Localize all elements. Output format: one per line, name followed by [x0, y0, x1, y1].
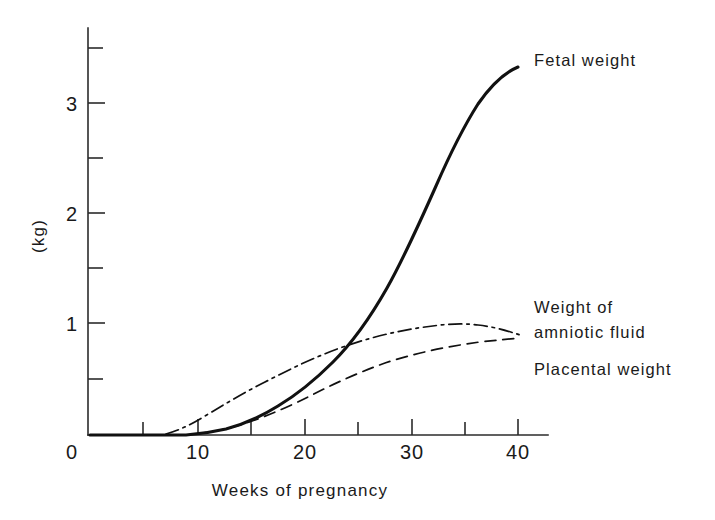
series-label-placental-weight: Placental weight: [534, 360, 672, 378]
y-tick-label-1: 1: [66, 313, 78, 335]
curve-amniotic-fluid: [166, 324, 520, 434]
curves-group: [90, 67, 520, 435]
axes-group: [88, 28, 548, 435]
x-tick-labels: 10 20 30 40: [186, 441, 530, 463]
y-tick-marks: [88, 48, 105, 379]
y-axis-title: (kg): [29, 219, 48, 253]
series-label-fetal-weight: Fetal weight: [534, 51, 636, 69]
curve-fetal-weight: [90, 67, 518, 435]
series-labels-group: Fetal weight Weight of amniotic fluid Pl…: [534, 51, 672, 378]
x-tick-label-10: 10: [186, 441, 210, 463]
y-tick-labels: 3 2 1 0: [66, 93, 78, 463]
y-tick-label-2: 2: [66, 203, 78, 225]
chart-figure: 3 2 1 0 10 20 30 40 Weeks of pregnancy (…: [0, 0, 715, 520]
x-tick-label-20: 20: [293, 441, 317, 463]
chart-svg: 3 2 1 0 10 20 30 40 Weeks of pregnancy (…: [0, 0, 715, 520]
y-tick-label-3: 3: [66, 93, 78, 115]
series-label-amniotic-fluid-line1: Weight of: [534, 298, 613, 316]
y-tick-label-0: 0: [66, 441, 78, 463]
curve-placental-weight: [195, 338, 520, 434]
x-axis-title: Weeks of pregnancy: [212, 481, 388, 500]
x-tick-label-40: 40: [506, 441, 530, 463]
x-tick-label-30: 30: [400, 441, 424, 463]
series-label-amniotic-fluid-line2: amniotic fluid: [534, 323, 646, 341]
